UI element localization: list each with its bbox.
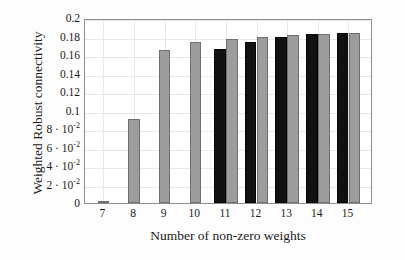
y-axis-tick-label: 0 bbox=[74, 198, 80, 210]
x-axis-title: Number of non-zero weights bbox=[84, 228, 372, 244]
bar-gray bbox=[159, 50, 171, 203]
bar-black bbox=[306, 34, 318, 203]
chart-figure: 02 · 10-24 · 10-26 · 10-28 · 10-20.10.12… bbox=[0, 0, 405, 260]
bar-gray bbox=[287, 35, 299, 203]
bar-gray bbox=[190, 42, 202, 203]
y-axis-tick-label: 0.14 bbox=[60, 69, 80, 81]
bar-black bbox=[275, 37, 287, 203]
bar-gray bbox=[318, 34, 330, 203]
x-axis-tick-label: 7 bbox=[100, 207, 106, 220]
bar-gray bbox=[257, 37, 269, 204]
gridline-horizontal bbox=[85, 20, 371, 21]
y-axis-tick-label: 0.12 bbox=[60, 87, 80, 99]
bar-gray bbox=[128, 119, 140, 203]
plot-area bbox=[84, 19, 372, 204]
x-axis-tick-label: 9 bbox=[161, 207, 167, 220]
y-axis-tick-label: 0.16 bbox=[60, 50, 80, 62]
bar-gray bbox=[226, 39, 238, 203]
bar-black bbox=[245, 42, 257, 203]
y-axis-title: Weighted Robust connectivity bbox=[30, 13, 46, 213]
bar-gray bbox=[349, 33, 361, 203]
y-axis-tick-label: 6 · 10-2 bbox=[46, 143, 80, 155]
x-axis-tick-labels: 789101112131415 bbox=[84, 207, 372, 225]
x-axis-tick-label: 13 bbox=[280, 207, 292, 220]
bar-black bbox=[337, 33, 349, 203]
y-axis-tick-label: 0.2 bbox=[66, 13, 80, 25]
bar-black bbox=[214, 49, 226, 203]
x-axis-tick-label: 12 bbox=[250, 207, 262, 220]
y-axis-tick-label: 8 · 10-2 bbox=[46, 124, 80, 136]
y-axis-tick-label: 2 · 10-2 bbox=[46, 180, 80, 192]
y-axis-tick-label: 0.1 bbox=[66, 106, 80, 118]
x-axis-tick-label: 10 bbox=[189, 207, 201, 220]
x-axis-tick-label: 11 bbox=[219, 207, 230, 220]
y-axis-tick-label: 0.18 bbox=[60, 32, 80, 44]
y-axis-tick-label: 4 · 10-2 bbox=[46, 161, 80, 173]
x-axis-tick-label: 15 bbox=[342, 207, 354, 220]
x-axis-tick-label: 14 bbox=[311, 207, 323, 220]
x-axis-tick-label: 8 bbox=[130, 207, 136, 220]
gridline-vertical bbox=[103, 20, 104, 203]
bar-gray bbox=[98, 201, 110, 203]
